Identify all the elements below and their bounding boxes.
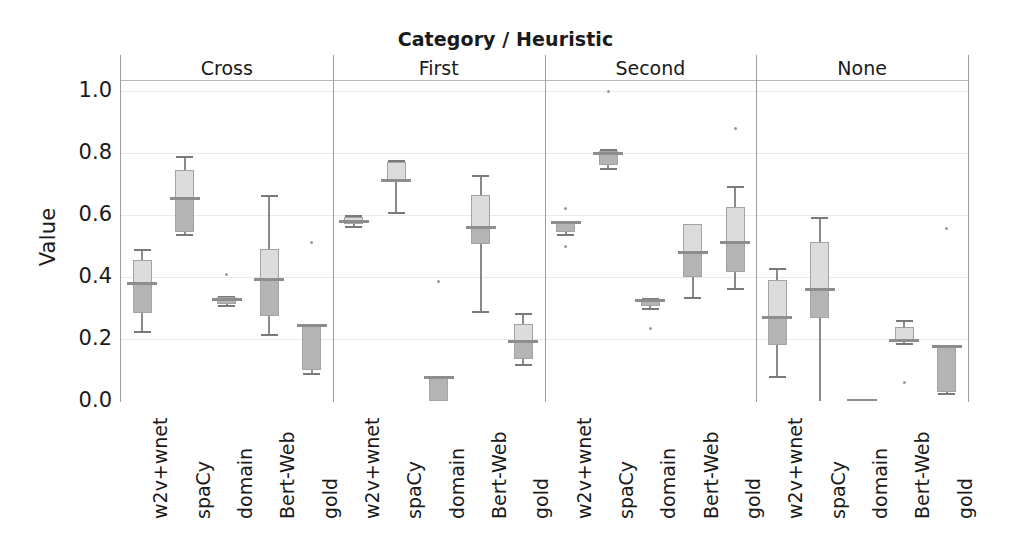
x-tick-gold: gold [956, 478, 975, 519]
x-tick-domain: domain [659, 448, 678, 519]
x-tick-bert-web: Bert-Web [913, 432, 932, 520]
x-tick-bert-web: Bert-Web [278, 432, 297, 520]
x-tick-bert-web: Bert-Web [702, 432, 721, 520]
x-tick-w2v-wnet: w2v+wnet [151, 417, 170, 519]
x-tick-gold: gold [321, 478, 340, 519]
x-tick-spacy: spaCy [829, 461, 848, 519]
panel-separator [333, 55, 334, 402]
x-tick-w2v-wnet: w2v+wnet [363, 417, 382, 519]
x-tick-domain: domain [871, 448, 890, 519]
x-tick-w2v-wnet: w2v+wnet [786, 417, 805, 519]
x-tick-spacy: spaCy [194, 461, 213, 519]
x-axis-ticks: w2v+wnetspaCydomainBert-Webgoldw2v+wnets… [0, 0, 1011, 560]
panel-separator [545, 55, 546, 402]
x-tick-domain: domain [448, 448, 467, 519]
boxplot-figure: Category / Heuristic Value 0.00.20.40.60… [0, 0, 1011, 560]
x-tick-w2v-wnet: w2v+wnet [575, 417, 594, 519]
x-tick-spacy: spaCy [617, 461, 636, 519]
x-tick-spacy: spaCy [405, 461, 424, 519]
x-tick-domain: domain [236, 448, 255, 519]
x-tick-bert-web: Bert-Web [490, 432, 509, 520]
x-tick-gold: gold [744, 478, 763, 519]
panel-separator [756, 55, 757, 402]
x-tick-gold: gold [532, 478, 551, 519]
